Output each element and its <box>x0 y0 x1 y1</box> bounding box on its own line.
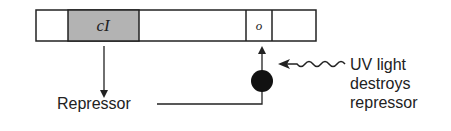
lambda-cI-repressor-diagram: cI o Repressor UV light destroys repress… <box>0 0 451 131</box>
operator-label: o <box>256 18 263 33</box>
uv-wave-arrow-icon <box>278 59 345 69</box>
dna-segment-bar: cI o <box>36 10 316 41</box>
repressor-molecule-dot <box>251 70 273 92</box>
uv-label-line-3: repressor <box>350 94 418 111</box>
uv-label-line-2: destroys <box>350 75 410 92</box>
repressor-binding-arrow-icon <box>157 50 262 104</box>
cI-gene-label: cI <box>96 16 111 35</box>
uv-label-line-1: UV light <box>350 56 407 73</box>
repressor-label: Repressor <box>57 95 131 112</box>
